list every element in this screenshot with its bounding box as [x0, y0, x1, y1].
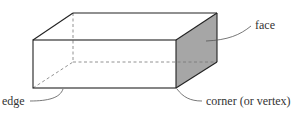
right-face — [176, 13, 217, 88]
prism-diagram: face edge corner (or vertex) — [0, 0, 301, 114]
face-label: face — [255, 18, 275, 32]
edge-label: edge — [2, 94, 25, 108]
corner-label: corner (or vertex) — [206, 94, 291, 108]
corner-leader — [177, 89, 202, 101]
leader-lines — [30, 26, 251, 101]
edge-leader — [30, 89, 63, 101]
